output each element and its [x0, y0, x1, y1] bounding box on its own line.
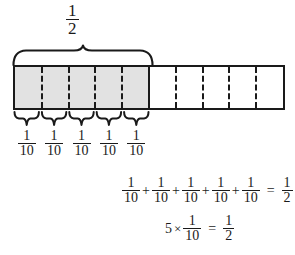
fraction-one-tenth: 1 10	[212, 176, 230, 206]
plus-operator: +	[140, 183, 152, 199]
equals-operator: =	[260, 183, 282, 199]
fraction-one-half: 1 2	[282, 176, 293, 206]
equation-sum: 1 10 + 1 10 + 1 10 + 1 10 + 1 10 = 1 2	[122, 176, 293, 206]
fraction-numerator: 1	[131, 129, 142, 143]
fraction-denominator: 10	[127, 143, 145, 158]
fraction-denominator: 2	[66, 19, 79, 37]
fraction-numerator: 1	[215, 176, 226, 190]
half-label-top: 1 2	[66, 2, 79, 38]
fraction-one-tenth: 1 10	[127, 129, 145, 159]
fraction-numerator: 1	[66, 2, 79, 19]
fraction-one-tenth: 1 10	[73, 129, 91, 159]
fraction-numerator: 1	[187, 214, 198, 228]
fraction-one-tenth: 1 10	[183, 214, 201, 244]
tenth-label: 1 10	[40, 129, 67, 159]
fraction-denominator: 10	[122, 190, 140, 205]
fraction-numerator: 1	[21, 129, 32, 143]
fraction-denominator: 10	[18, 143, 36, 158]
fraction-one-tenth: 1 10	[122, 176, 140, 206]
fraction-one-tenth: 1 10	[45, 129, 63, 159]
equation-multiply: 5 × 1 10 = 1 2	[165, 214, 234, 244]
fraction-denominator: 2	[223, 228, 234, 243]
fraction-one-tenth: 1 10	[18, 129, 36, 159]
fraction-denominator: 10	[100, 143, 118, 158]
fraction-denominator: 10	[212, 190, 230, 205]
tenth-label: 1 10	[95, 129, 122, 159]
bar-cell	[42, 67, 69, 108]
fraction-one-tenth: 1 10	[182, 176, 200, 206]
fraction-one-half: 1 2	[66, 2, 79, 38]
fraction-diagram: 1 2	[0, 0, 295, 255]
fraction-denominator: 2	[282, 190, 293, 205]
fraction-one-half: 1 2	[223, 214, 234, 244]
bar-cell	[256, 67, 283, 108]
plus-operator: +	[230, 183, 242, 199]
fraction-one-tenth: 1 10	[152, 176, 170, 206]
plus-operator: +	[170, 183, 182, 199]
fraction-numerator: 1	[282, 176, 293, 190]
top-brace	[12, 44, 154, 66]
tenth-labels-row: 1 10 1 10 1 10 1 10 1 10	[13, 129, 150, 159]
fraction-numerator: 1	[185, 176, 196, 190]
fraction-denominator: 10	[183, 228, 201, 243]
tenth-braces	[13, 111, 150, 128]
fraction-denominator: 10	[242, 190, 260, 205]
fraction-denominator: 10	[45, 143, 63, 158]
bar-cell	[69, 67, 96, 108]
fraction-numerator: 1	[126, 176, 137, 190]
fraction-numerator: 1	[155, 176, 166, 190]
tenth-braces-icon	[13, 111, 150, 128]
bar-cell	[122, 67, 149, 108]
fraction-denominator: 10	[152, 190, 170, 205]
fraction-denominator: 10	[73, 143, 91, 158]
fraction-numerator: 1	[245, 176, 256, 190]
multiplier-value: 5	[165, 221, 173, 237]
bar-cell	[203, 67, 230, 108]
bar-cell	[15, 67, 42, 108]
bar-cell	[229, 67, 256, 108]
equals-operator: =	[201, 221, 223, 237]
bar-cell	[176, 67, 203, 108]
fraction-one-tenth: 1 10	[242, 176, 260, 206]
plus-operator: +	[200, 183, 212, 199]
fraction-bar	[13, 65, 285, 110]
top-brace-icon	[12, 44, 154, 66]
times-operator: ×	[173, 221, 183, 237]
fraction-one-tenth: 1 10	[100, 129, 118, 159]
fraction-numerator: 1	[223, 214, 234, 228]
bar-cell	[95, 67, 122, 108]
fraction-denominator: 10	[182, 190, 200, 205]
fraction-numerator: 1	[76, 129, 87, 143]
tenth-label: 1 10	[123, 129, 150, 159]
tenth-label: 1 10	[68, 129, 95, 159]
fraction-numerator: 1	[103, 129, 114, 143]
tenth-label: 1 10	[13, 129, 40, 159]
bar-cell	[149, 67, 176, 108]
fraction-numerator: 1	[49, 129, 60, 143]
